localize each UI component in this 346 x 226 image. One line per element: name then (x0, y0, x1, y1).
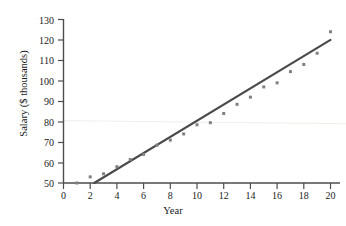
data-point (209, 121, 212, 124)
x-tick-label: 8 (168, 190, 173, 201)
data-point (302, 63, 305, 66)
reference-line (64, 121, 346, 124)
y-tick-label: 50 (26, 178, 54, 189)
x-tick-label: 20 (326, 190, 336, 201)
data-point (316, 52, 319, 55)
data-point (102, 172, 105, 175)
y-tick-marks (58, 20, 64, 184)
data-point (262, 85, 265, 88)
data-point (129, 158, 132, 161)
trend-line (94, 40, 330, 183)
data-point (236, 103, 239, 106)
data-point (75, 182, 78, 185)
scatter-plot-chart: Salary ($ thousands) Year 13012011010090… (0, 0, 346, 226)
x-tick-label: 4 (114, 190, 119, 201)
data-point (289, 70, 292, 73)
y-tick-label: 120 (26, 34, 54, 45)
data-point (329, 30, 332, 33)
x-tick-label: 16 (272, 190, 282, 201)
data-point (89, 175, 92, 178)
data-point-group (75, 30, 332, 184)
x-tick-label: 18 (299, 190, 309, 201)
x-tick-label: 12 (219, 190, 229, 201)
data-point (155, 144, 158, 147)
x-axis-title: Year (0, 205, 346, 216)
data-point (182, 132, 185, 135)
data-point (142, 153, 145, 156)
y-tick-label: 110 (26, 55, 54, 66)
x-tick-label: 14 (245, 190, 255, 201)
data-point (115, 165, 118, 168)
y-tick-label: 90 (26, 96, 54, 107)
y-tick-label: 100 (26, 75, 54, 86)
data-point (196, 123, 199, 126)
x-tick-marks (64, 183, 331, 189)
x-tick-label: 6 (141, 190, 146, 201)
data-point (169, 139, 172, 142)
y-tick-label: 80 (26, 116, 54, 127)
x-tick-label: 10 (192, 190, 202, 201)
y-tick-label: 130 (26, 14, 54, 25)
data-point (222, 112, 225, 115)
y-tick-label: 70 (26, 137, 54, 148)
y-tick-label: 60 (26, 157, 54, 168)
x-tick-label: 2 (88, 190, 93, 201)
x-tick-label: 0 (61, 190, 66, 201)
data-point (276, 81, 279, 84)
data-point (249, 96, 252, 99)
